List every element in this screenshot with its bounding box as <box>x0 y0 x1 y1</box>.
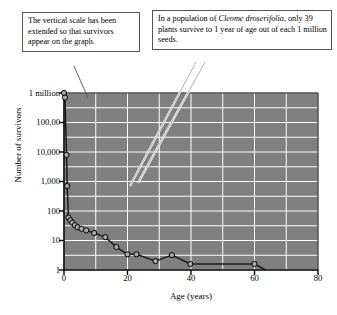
plot-area <box>0 0 337 315</box>
figure-survivorship-curve: The vertical scale has been extended so … <box>0 0 337 315</box>
